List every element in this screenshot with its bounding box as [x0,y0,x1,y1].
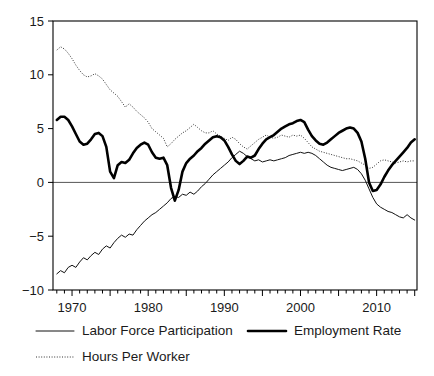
legend-label: Labor Force Participation [82,323,233,338]
chart-canvas: 151050−5−10 19701980199020002010 Labor F… [0,0,434,376]
legend-label: Hours Per Worker [82,349,190,364]
y-tick-label: 5 [37,121,44,136]
x-axis-ticks [57,290,415,296]
legend-item: Labor Force Participation [36,323,233,338]
x-tick-label: 2010 [362,300,391,315]
chart-figure: 151050−5−10 19701980199020002010 Labor F… [0,0,434,376]
x-tick-label: 1980 [134,300,163,315]
x-tick-label: 1990 [210,300,239,315]
x-tick-label: 2000 [286,300,315,315]
y-tick-label: 0 [37,175,44,190]
y-tick-label: 15 [30,14,44,29]
y-axis-tick-labels: 151050−5−10 [22,14,44,298]
legend-item: Hours Per Worker [36,349,190,364]
x-axis-tick-labels: 19701980199020002010 [58,300,392,315]
y-tick-label: −5 [29,229,44,244]
x-tick-label: 1970 [58,300,87,315]
y-axis-ticks [48,21,53,290]
legend-label: Employment Rate [294,323,401,338]
chart-legend: Labor Force ParticipationEmployment Rate… [36,323,401,364]
y-tick-label: 10 [30,67,44,82]
y-tick-label: −10 [22,283,44,298]
legend-item: Employment Rate [248,323,401,338]
